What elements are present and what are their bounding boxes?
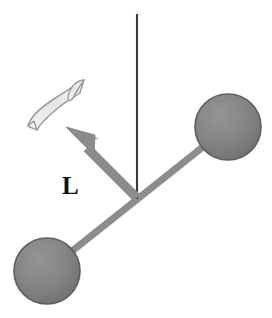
physics-diagram-canvas: L — [0, 0, 272, 318]
mass-sphere-lower-left — [14, 238, 80, 304]
angular-momentum-diagram: L — [0, 0, 272, 318]
mass-sphere-upper-right — [195, 94, 261, 160]
angular-momentum-label: L — [62, 172, 79, 199]
